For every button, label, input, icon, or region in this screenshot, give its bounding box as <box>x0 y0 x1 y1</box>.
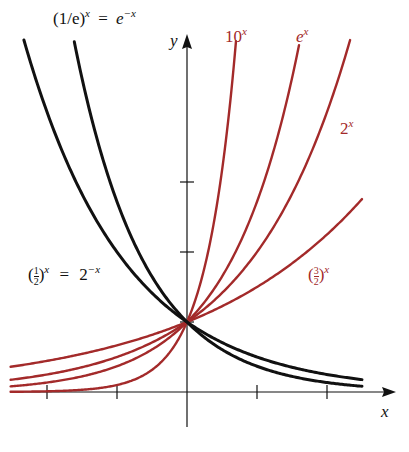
y-axis-label: y <box>170 32 178 49</box>
label-2-x: 2x <box>340 118 353 137</box>
label-e-neg-x: (1/e)x = e−x <box>53 8 136 27</box>
plot-area <box>0 0 409 452</box>
x-axis-arrow-icon <box>382 387 396 397</box>
label-e-x: ex <box>296 26 308 45</box>
label-half-x: (12)x = 2−x <box>28 264 100 287</box>
label-10-x: 10x <box>225 26 247 45</box>
label-three-halves-x: (32)x <box>308 264 329 287</box>
curve-1-e-x-e-x <box>74 42 362 386</box>
y-axis-arrow-icon <box>182 34 192 49</box>
label-e-neg-x-lhs: (1/e) <box>53 9 85 28</box>
curve-e-x <box>11 45 299 386</box>
x-axis-label: x <box>381 403 389 420</box>
